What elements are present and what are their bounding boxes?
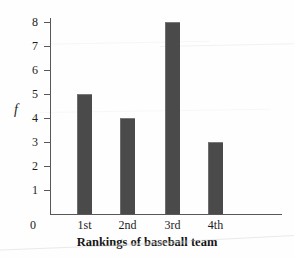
y-axis-tick	[44, 22, 50, 23]
x-axis-tick-label: 2nd	[108, 219, 148, 231]
x-axis-line	[50, 214, 282, 215]
y-axis-tick	[44, 46, 50, 47]
y-axis-tick	[44, 142, 50, 143]
bar-4th	[208, 142, 223, 214]
y-axis-tick-label: 2	[18, 160, 38, 172]
bar-chart-figure: f 87654321 1st2nd3rd4th 0 Rankings of ba…	[0, 0, 294, 258]
x-axis-tick-label: 3rd	[153, 219, 193, 231]
bar-2nd	[120, 118, 135, 214]
y-axis-tick-label: 4	[18, 112, 38, 124]
y-axis-origin-label: 0	[30, 219, 36, 231]
y-axis-tick	[44, 118, 50, 119]
y-axis-tick-label: 5	[18, 88, 38, 100]
x-axis-tick-label: 4th	[196, 219, 236, 231]
y-axis-tick-label: 8	[18, 16, 38, 28]
y-axis-line	[50, 18, 51, 215]
bar-1st	[77, 94, 92, 214]
x-axis-tick-label: 1st	[65, 219, 105, 231]
y-axis-tick	[44, 70, 50, 71]
bar-3rd	[165, 22, 180, 214]
x-axis-title: Rankings of baseball team	[0, 236, 294, 249]
plot-area: f 87654321 1st2nd3rd4th 0 Rankings of ba…	[0, 0, 294, 258]
y-axis-tick	[44, 94, 50, 95]
y-axis-tick	[44, 166, 50, 167]
y-axis-tick-label: 7	[18, 40, 38, 52]
y-axis-tick-label: 3	[18, 136, 38, 148]
y-axis-tick	[44, 190, 50, 191]
y-axis-tick-label: 1	[18, 184, 38, 196]
y-axis-tick-label: 6	[18, 64, 38, 76]
